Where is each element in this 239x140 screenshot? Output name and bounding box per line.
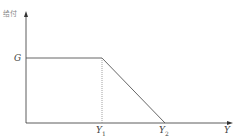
y2-tick-label: Y2: [159, 126, 169, 137]
y-axis-label: 给付: [3, 11, 17, 18]
y-axis-arrow-icon: [24, 11, 28, 17]
benefit-line: [26, 58, 165, 123]
x-axis-label: Y: [224, 126, 230, 135]
chart-canvas: [0, 0, 239, 140]
y1-sub: 1: [102, 130, 106, 137]
g-tick-label: G: [14, 54, 21, 63]
y1-tick-label: Y1: [96, 126, 106, 137]
y2-sub: 2: [165, 130, 169, 137]
